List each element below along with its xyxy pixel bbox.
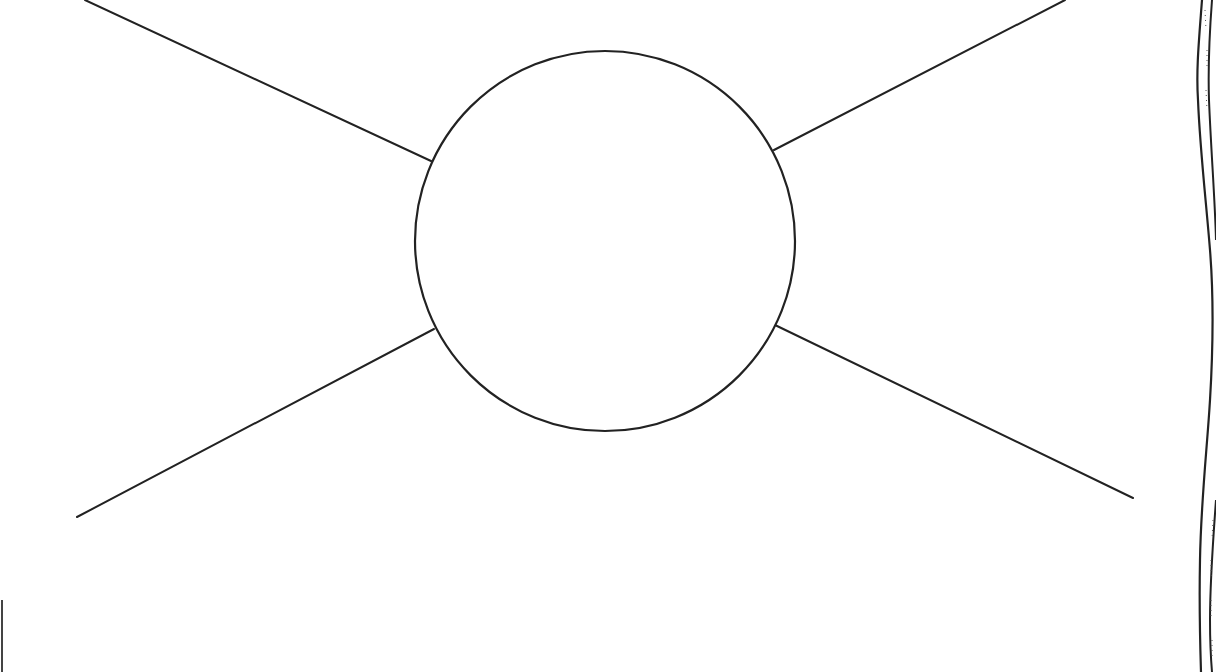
spider-map-diagram — [0, 0, 1216, 672]
center-circle — [415, 51, 795, 431]
